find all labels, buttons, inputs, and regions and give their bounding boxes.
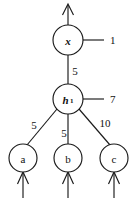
side-label-group: 1 7: [110, 34, 116, 105]
node-graph-svg: x h 1 a b c 5 5 5 10 1 7: [0, 0, 140, 199]
weight-label-a-h1: 5: [31, 119, 37, 131]
node-x[interactable]: x: [53, 25, 83, 55]
node-b[interactable]: b: [54, 144, 82, 172]
node-a[interactable]: a: [9, 144, 37, 172]
input-arrow-c: [109, 172, 120, 198]
input-arrow-b: [63, 172, 74, 198]
node-a-label: a: [21, 153, 26, 165]
side-label-x: 1: [110, 34, 116, 46]
node-x-label: x: [64, 35, 71, 47]
diagram-container: x h 1 a b c 5 5 5 10 1 7: [0, 0, 140, 199]
output-arrow: [63, 4, 74, 25]
node-h1-subscript: 1: [70, 97, 74, 105]
weight-label-b-h1: 5: [61, 127, 67, 139]
node-c[interactable]: c: [100, 144, 128, 172]
node-c-label: c: [112, 153, 117, 165]
node-h1[interactable]: h 1: [53, 84, 83, 114]
side-label-h1: 7: [110, 93, 116, 105]
node-b-label: b: [65, 153, 71, 165]
input-arrow-a: [18, 172, 29, 198]
node-h1-label: h: [62, 94, 68, 106]
weight-label-c-h1: 10: [100, 117, 112, 129]
weight-label-h1-x: 5: [72, 65, 78, 77]
